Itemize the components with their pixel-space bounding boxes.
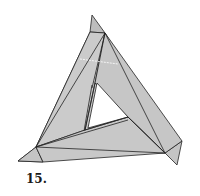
figure-canvas: 15. xyxy=(0,0,200,196)
figure-number: 15. xyxy=(26,172,47,186)
origami-triangle-diagram xyxy=(0,0,200,196)
